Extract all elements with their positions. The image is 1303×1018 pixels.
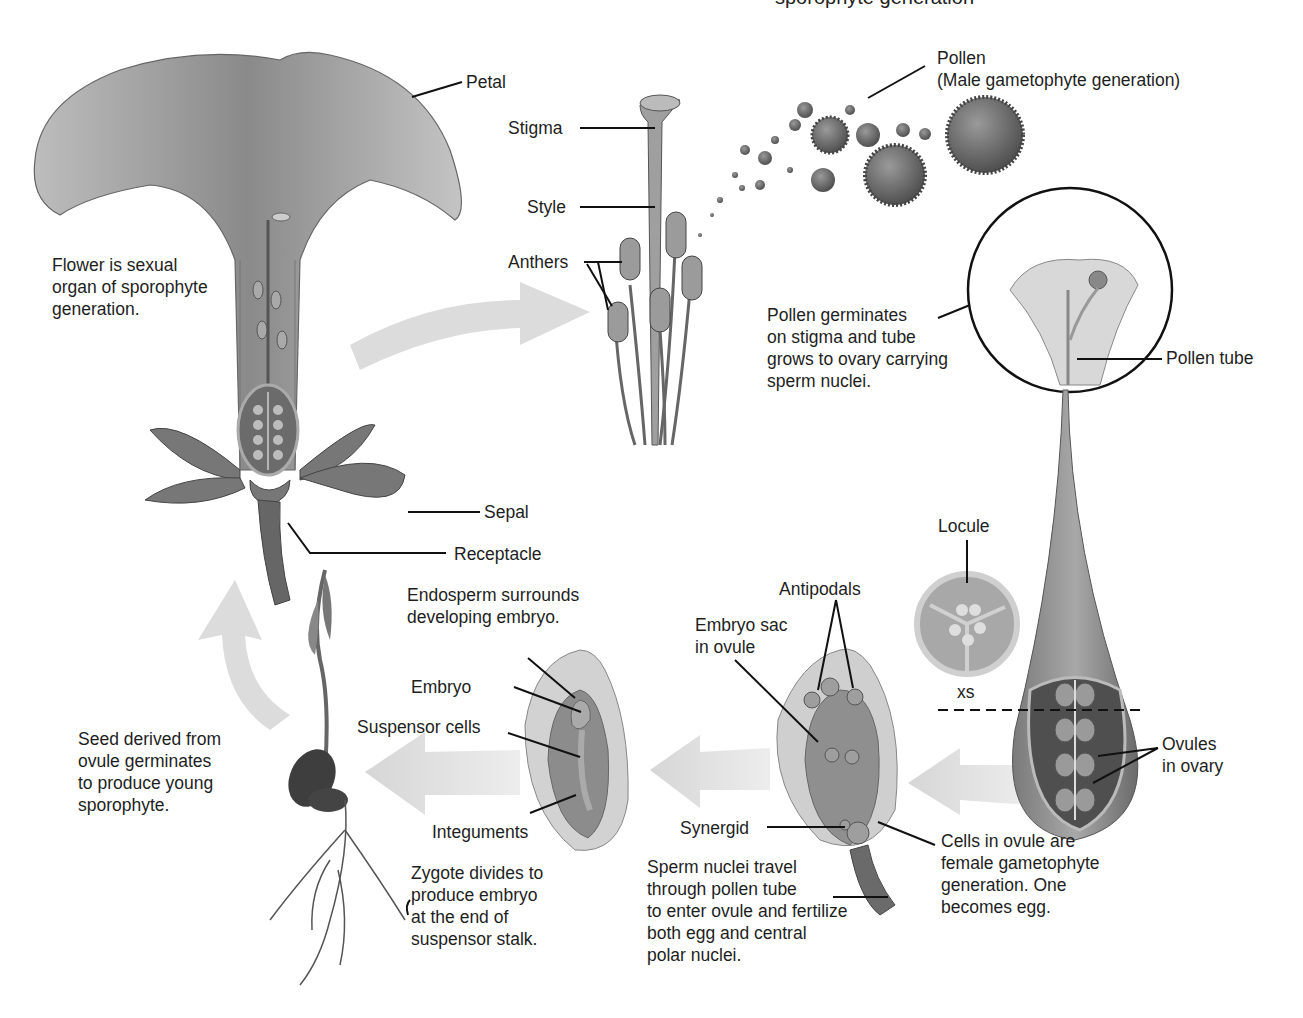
label-style: Style: [527, 196, 566, 218]
label-anthers: Anthers: [508, 251, 568, 273]
label-pollen: Pollen (Male gametophyte generation): [937, 47, 1180, 91]
label-pollen-germinates: Pollen germinates on stigma and tube gro…: [767, 304, 948, 392]
cycle-arrow-flower-to-stamen: [350, 282, 590, 370]
label-zygote-divides: Zygote divides to produce embryo at the …: [411, 862, 543, 950]
label-endosperm: Endosperm surrounds developing embryo.: [407, 584, 579, 628]
label-pollen-tube: Pollen tube: [1166, 347, 1254, 369]
magnified-stigma: [968, 188, 1172, 392]
developing-seed: [525, 650, 628, 850]
label-flower-note: Flower is sexual organ of sporophyte gen…: [52, 254, 208, 320]
flower-life-cycle-diagram: sporophyte generation: [0, 0, 1303, 1018]
label-suspensor-cells: Suspensor cells: [357, 716, 481, 738]
label-ovules-in-ovary: Ovules in ovary: [1162, 733, 1223, 777]
label-integuments: Integuments: [432, 821, 528, 843]
label-stigma: Stigma: [508, 117, 562, 139]
label-locule: Locule: [938, 515, 990, 537]
label-cells-in-ovule: Cells in ovule are female gametophyte ge…: [941, 830, 1100, 918]
label-receptacle: Receptacle: [454, 543, 542, 565]
label-petal: Petal: [466, 71, 506, 93]
label-embryo: Embryo: [411, 676, 471, 698]
label-embryo-sac: Embryo sac in ovule: [695, 614, 787, 658]
pollen-grains: [698, 97, 1023, 237]
cycle-arrow-ovule-to-seed-ovule: [650, 735, 770, 808]
locule-cross-section: [917, 574, 1017, 674]
label-synergid: Synergid: [680, 817, 749, 839]
label-xs: xs: [957, 681, 975, 703]
label-sperm-nuclei: Sperm nuclei travel through pollen tube …: [647, 856, 847, 966]
label-antipodals: Antipodals: [779, 578, 861, 600]
ovary-illustration: [1013, 390, 1138, 840]
cycle-arrow-ovary-to-ovule: [908, 748, 1030, 815]
pistil-stamen-illustration: [608, 95, 702, 445]
label-seed-derived: Seed derived from ovule germinates to pr…: [78, 728, 221, 816]
label-sepal: Sepal: [484, 501, 529, 523]
cycle-arrow-seed-to-seedling: [365, 732, 520, 815]
